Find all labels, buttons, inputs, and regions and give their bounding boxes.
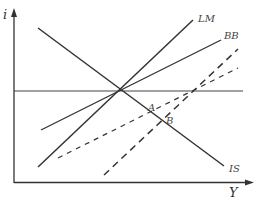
bb-label: BB <box>223 30 239 41</box>
x-axis-arrow-icon <box>245 180 254 186</box>
y-axis-arrow-icon <box>11 8 17 17</box>
is-lm-bb-diagram: i Y IS LM BB A B <box>0 0 264 207</box>
y-axis-label: i <box>3 7 7 22</box>
lm-label: LM <box>197 13 216 24</box>
x-axis-label: Y <box>229 185 239 200</box>
bb-shifted-dashed-curve <box>58 68 238 158</box>
is-label: IS <box>228 163 240 174</box>
bb-curve <box>41 40 221 130</box>
diagram-svg: i Y IS LM BB A B <box>0 0 264 207</box>
point-a-label: A <box>147 102 155 113</box>
is-curve <box>38 28 224 166</box>
lm-shifted-dashed-curve <box>104 49 238 175</box>
lm-curve <box>38 20 193 167</box>
point-b-label: B <box>165 115 173 126</box>
